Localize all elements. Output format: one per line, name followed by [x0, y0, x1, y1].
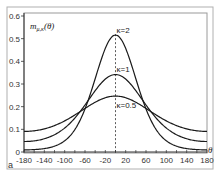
y-tick-label: 0.1: [9, 125, 21, 134]
series-label-kappa-2: κ=2: [117, 26, 131, 35]
x-tick-label: -180: [16, 156, 33, 165]
x-tick-label: 140: [180, 156, 194, 165]
y-tick-label: 0.5: [9, 35, 21, 44]
series-label-kappa-0-5: κ=0.5: [117, 101, 137, 110]
series-label-kappa-1: κ=1: [117, 65, 131, 74]
x-tick-label: 20: [121, 156, 130, 165]
y-axis-title: mμ,κ(θ): [30, 21, 54, 32]
x-tick-label: -140: [36, 156, 53, 165]
panel-label: a: [8, 160, 13, 170]
y-tick-label: 0.4: [9, 57, 21, 66]
y-tick-label: 0.6: [9, 12, 21, 21]
x-tick-label: 60: [142, 156, 151, 165]
series-line-kappa-0-5: [24, 96, 207, 131]
y-axis-title-subscript: μ,κ: [37, 26, 45, 32]
y-tick-label: 0.3: [9, 80, 21, 89]
labels: κ=2κ=1κ=0.5: [117, 26, 137, 110]
x-tick-label: 180: [200, 156, 214, 165]
y-tick-label: 0.2: [9, 103, 21, 112]
x-tick-label: -100: [57, 156, 74, 165]
von-mises-chart: 00.10.20.30.40.50.6-180-140-100-60-20206…: [0, 0, 223, 172]
x-tick-label: -20: [100, 156, 112, 165]
x-tick-label: -60: [79, 156, 91, 165]
axes: 00.10.20.30.40.50.6-180-140-100-60-20206…: [9, 12, 214, 165]
curves: [24, 34, 207, 152]
series-line-kappa-2: [24, 35, 207, 150]
x-axis-title: θ: [208, 145, 213, 155]
y-axis-title-suffix: (θ): [44, 21, 54, 31]
x-tick-label: 100: [160, 156, 174, 165]
